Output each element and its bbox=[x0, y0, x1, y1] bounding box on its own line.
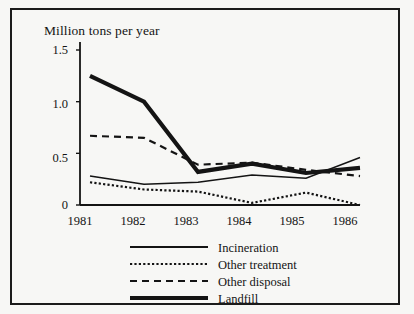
plot-area bbox=[12, 10, 398, 303]
series-line-other-treatment bbox=[90, 182, 360, 205]
figure: Million tons per year 1.5 1.0 0.5 0 1981… bbox=[0, 0, 414, 314]
chart-frame: Million tons per year 1.5 1.0 0.5 0 1981… bbox=[10, 8, 400, 305]
series-line-landfill bbox=[90, 76, 360, 173]
